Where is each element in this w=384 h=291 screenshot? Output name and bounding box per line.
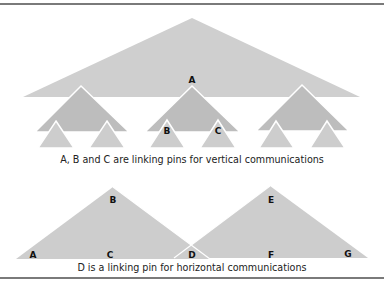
top-level-triangle: [23, 18, 360, 97]
label-d-bottom: D: [188, 251, 195, 260]
linking-pin-diagram: [0, 0, 384, 291]
label-a-bottom: A: [30, 251, 37, 260]
horizontal-caption: D is a linking pin for horizontal commun…: [0, 263, 384, 273]
label-f-bottom: F: [268, 251, 274, 260]
label-c-top: C: [215, 127, 222, 136]
label-e-bottom: E: [268, 196, 274, 205]
label-a-top: A: [189, 76, 196, 85]
label-g-bottom: G: [344, 250, 351, 259]
label-b-top: B: [164, 127, 171, 136]
label-b-bottom: B: [110, 196, 117, 205]
vertical-caption: A, B and C are linking pins for vertical…: [0, 155, 384, 165]
label-c-bottom: C: [107, 251, 114, 260]
